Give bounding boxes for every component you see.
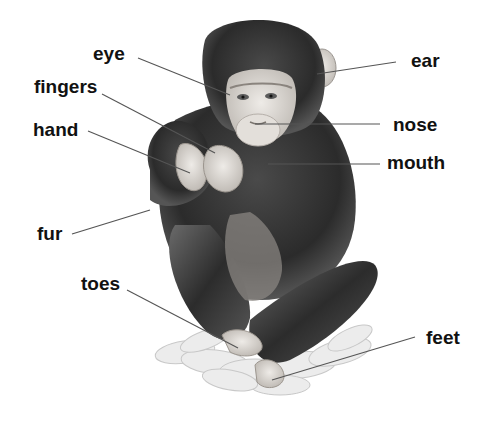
label-fur: fur: [37, 224, 62, 243]
label-toes: toes: [81, 274, 120, 293]
leader-line-fur: [72, 210, 150, 234]
chimpanzee-diagram: eye fingers hand fur toes ear nose mouth…: [0, 0, 493, 429]
label-feet: feet: [426, 328, 460, 347]
label-hand: hand: [33, 120, 78, 139]
muzzle: [236, 114, 280, 146]
label-fingers: fingers: [34, 77, 97, 96]
label-eye: eye: [93, 44, 125, 63]
label-nose: nose: [393, 115, 437, 134]
label-mouth: mouth: [387, 153, 445, 172]
label-ear: ear: [411, 51, 440, 70]
